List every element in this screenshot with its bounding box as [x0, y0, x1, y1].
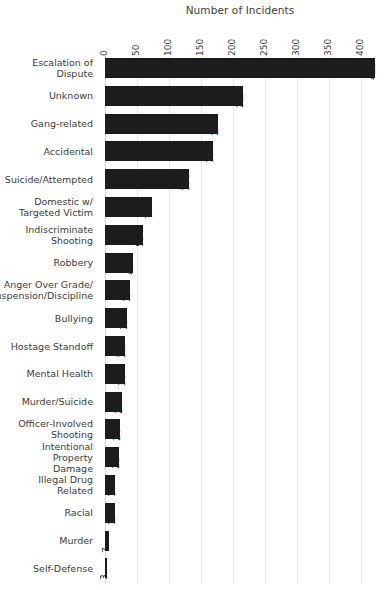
bar[interactable] [105, 114, 218, 134]
category-label: Domestic w/ Targeted Victim [0, 197, 99, 217]
x-axis-top: 050100150200250300350400 [105, 18, 375, 56]
bar-row[interactable]: 422 [105, 58, 375, 78]
category-label: Murder [0, 531, 99, 551]
category-label: Self-Defense [0, 558, 99, 578]
category-label: Officer-Involved Shooting [0, 419, 99, 439]
bar-row[interactable]: 35 [105, 308, 375, 328]
bar-row[interactable]: 169 [105, 141, 375, 161]
bar-value-label: 31 [118, 347, 127, 358]
bar-row[interactable]: 3 [105, 558, 375, 578]
bar-value-label: 26 [115, 402, 124, 413]
x-tick-label: 350 [324, 39, 333, 56]
bar-value-label: 215 [236, 91, 245, 108]
category-label: Hostage Standoff [0, 336, 99, 356]
category-label: Intentional Property Damage [0, 447, 99, 467]
bar-row[interactable]: 31 [105, 364, 375, 384]
bar-row[interactable]: 16 [105, 475, 375, 495]
chart-title: Number of Incidents [105, 4, 375, 16]
category-label: Murder/Suicide [0, 392, 99, 412]
bar-value-label: 132 [182, 174, 191, 191]
bar-row[interactable]: 31 [105, 336, 375, 356]
x-tick-label: 250 [260, 39, 269, 56]
bar-value-label: 44 [126, 263, 135, 274]
category-label: Mental Health [0, 364, 99, 384]
bar-value-label: 16 [108, 486, 117, 497]
bar-value-label: 31 [118, 374, 127, 385]
bar-value-label: 39 [123, 291, 132, 302]
category-label: Escalation of Dispute [0, 58, 99, 78]
bar-row[interactable]: 7 [105, 531, 375, 551]
x-tick-label: 100 [164, 39, 173, 56]
category-label: Anger Over Grade/ Suspension/Discipline [0, 280, 99, 300]
x-tick-label: 300 [292, 39, 301, 56]
category-label: Robbery [0, 253, 99, 273]
bar-row[interactable]: 215 [105, 86, 375, 106]
bar-value-label: 7 [102, 547, 111, 553]
bar-value-label: 15 [108, 513, 117, 524]
plot-area: 4222151771691327459443935313126242216157… [105, 56, 375, 584]
bar-value-label: 177 [211, 118, 220, 135]
bar-row[interactable]: 59 [105, 225, 375, 245]
bar[interactable] [105, 169, 189, 189]
bar-chart: Number of Incidents 05010015020025030035… [0, 0, 391, 590]
bar-value-label: 22 [112, 458, 121, 469]
x-tick-label: 200 [228, 39, 237, 56]
bar-value-label: 59 [136, 235, 145, 246]
category-label: Bullying [0, 308, 99, 328]
bar[interactable] [105, 141, 213, 161]
bar-value-label: 3 [100, 575, 109, 581]
bar-row[interactable]: 132 [105, 169, 375, 189]
category-axis-labels: Escalation of DisputeUnknownGang-related… [0, 56, 99, 584]
bar-row[interactable]: 74 [105, 197, 375, 217]
bar-value-label: 35 [120, 319, 129, 330]
category-label: Suicide/Attempted [0, 169, 99, 189]
category-label: Illegal Drug Related [0, 475, 99, 495]
bar-row[interactable]: 177 [105, 114, 375, 134]
bar-row[interactable]: 24 [105, 419, 375, 439]
x-tick-label: 50 [132, 45, 141, 56]
x-tick-label: 150 [196, 39, 205, 56]
bar-value-label: 169 [206, 146, 215, 163]
bar-row[interactable]: 22 [105, 447, 375, 467]
category-label: Racial [0, 503, 99, 523]
bar-value-label: 422 [368, 63, 377, 80]
bar-row[interactable]: 39 [105, 280, 375, 300]
category-label: Indiscriminate Shooting [0, 225, 99, 245]
bar-value-label: 24 [113, 430, 122, 441]
category-label: Accidental [0, 141, 99, 161]
bar[interactable] [105, 58, 375, 78]
bar-row[interactable]: 26 [105, 392, 375, 412]
bar-value-label: 74 [145, 208, 154, 219]
bar-row[interactable]: 44 [105, 253, 375, 273]
category-label: Gang-related [0, 114, 99, 134]
category-label: Unknown [0, 86, 99, 106]
bar-row[interactable]: 15 [105, 503, 375, 523]
bar[interactable] [105, 86, 243, 106]
x-tick-label: 400 [356, 39, 365, 56]
